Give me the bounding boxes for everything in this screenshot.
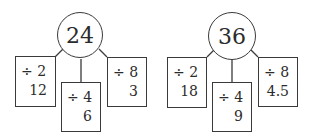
operation-label: ÷ 8 <box>113 64 138 80</box>
branch-box-divide-8: ÷ 8 4.5 <box>258 57 298 107</box>
root-value: 36 <box>218 24 246 49</box>
division-diagram-36: 36 ÷ 2 18 ÷ 4 9 ÷ 8 4.5 <box>152 0 307 138</box>
result-value: 6 <box>83 108 92 124</box>
operation-label: ÷ 2 <box>21 63 46 79</box>
result-value: 18 <box>180 83 198 99</box>
operation-label: ÷ 4 <box>218 89 243 105</box>
branch-box-divide-8: ÷ 8 3 <box>107 57 147 107</box>
root-circle: 36 <box>208 12 256 60</box>
root-value: 24 <box>66 23 94 48</box>
root-circle: 24 <box>57 12 103 58</box>
branch-box-divide-4: ÷ 4 6 <box>61 82 101 132</box>
branch-box-divide-2: ÷ 2 12 <box>15 56 56 107</box>
operation-label: ÷ 2 <box>173 64 198 80</box>
result-value: 4.5 <box>267 83 289 99</box>
result-value: 3 <box>129 83 138 99</box>
division-diagram-24: 24 ÷ 2 12 ÷ 4 6 ÷ 8 3 <box>0 0 155 138</box>
result-value: 9 <box>234 108 243 124</box>
operation-label: ÷ 8 <box>264 64 289 80</box>
branch-box-divide-2: ÷ 2 18 <box>167 57 207 108</box>
branch-box-divide-4: ÷ 4 9 <box>212 82 252 132</box>
operation-label: ÷ 4 <box>67 89 92 105</box>
result-value: 12 <box>29 82 47 98</box>
